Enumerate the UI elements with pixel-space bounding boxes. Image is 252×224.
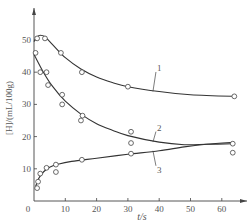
data-point-marker — [60, 92, 65, 97]
data-point-marker — [230, 141, 235, 146]
data-point-marker — [38, 171, 43, 176]
data-point-marker — [129, 151, 134, 156]
labels: 123 — [153, 63, 162, 175]
data-point-marker — [35, 186, 40, 191]
y-axis-label: [H]/(mL/100g) — [4, 81, 14, 135]
data-point-marker — [44, 165, 49, 170]
x-tick-label: 10 — [61, 204, 71, 214]
x-tick-label: 20 — [92, 204, 102, 214]
data-point-marker — [54, 170, 59, 175]
data-point-marker — [79, 118, 84, 123]
data-point-marker — [44, 70, 49, 75]
data-point-marker — [79, 157, 84, 162]
data-point-marker — [230, 150, 235, 155]
origin-label: 0 — [26, 204, 31, 214]
data-point-marker — [60, 102, 65, 107]
data-point-marker — [36, 179, 41, 184]
data-point-marker — [33, 50, 38, 55]
x-tick-label: 40 — [155, 204, 165, 214]
y-axis-arrow-icon — [32, 8, 36, 15]
data-point-marker — [129, 141, 134, 146]
x-tick-label: 50 — [186, 204, 196, 214]
curve-1 — [34, 35, 234, 96]
chart: 10203040506001020304050 123 t/s [H]/(mL/… — [0, 0, 252, 224]
x-axis-arrow-icon — [240, 199, 247, 203]
curve-label-3: 3 — [157, 165, 162, 175]
data-point-marker — [46, 83, 51, 88]
y-tick-label: 10 — [22, 164, 32, 174]
x-axis-label: t/s — [137, 211, 147, 222]
curve-label-2: 2 — [157, 123, 162, 133]
curves — [34, 35, 234, 186]
data-point-marker — [59, 50, 64, 55]
data-point-marker — [129, 129, 134, 134]
y-tick-label: 50 — [22, 35, 32, 45]
data-point-marker — [232, 94, 237, 99]
curve-3 — [36, 142, 233, 186]
y-tick-label: 20 — [22, 132, 32, 142]
x-tick-label: 60 — [217, 204, 227, 214]
data-point-marker — [43, 36, 48, 41]
x-tick-label: 30 — [123, 204, 133, 214]
data-point-marker — [79, 70, 84, 75]
data-point-marker — [80, 113, 85, 118]
data-point-marker — [54, 162, 59, 167]
axes: 10203040506001020304050 — [22, 8, 247, 214]
y-tick-label: 40 — [22, 67, 32, 77]
data-point-marker — [126, 84, 131, 89]
markers — [33, 36, 237, 191]
y-tick-label: 30 — [22, 99, 32, 109]
data-point-marker — [38, 70, 43, 75]
data-point-marker — [35, 36, 40, 41]
curve-label-1: 1 — [157, 63, 162, 73]
